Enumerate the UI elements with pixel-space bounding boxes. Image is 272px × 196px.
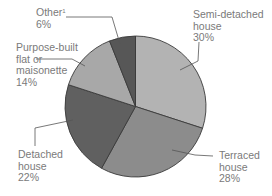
footnote-marker: 1 bbox=[62, 8, 65, 14]
label-terraced: Terraced house 28% bbox=[219, 150, 260, 185]
label-flat-value: 14% bbox=[16, 77, 78, 89]
label-detached-line1: Detached bbox=[18, 149, 63, 161]
label-other-name: Other bbox=[36, 6, 62, 18]
pie-slices bbox=[65, 36, 206, 177]
label-semi: Semi-detached house 30% bbox=[193, 9, 264, 44]
label-flat-line3: maisonette bbox=[16, 65, 78, 77]
label-terraced-line1: Terraced bbox=[219, 150, 260, 162]
label-terraced-value: 28% bbox=[219, 173, 260, 185]
label-flat: Purpose-built flat or maisonette 14% bbox=[16, 42, 78, 88]
label-detached-value: 22% bbox=[18, 172, 63, 184]
label-other: Other1 6% bbox=[36, 7, 66, 30]
label-flat-line1: Purpose-built bbox=[16, 42, 78, 54]
label-other-value: 6% bbox=[36, 19, 66, 31]
label-detached: Detached house 22% bbox=[18, 149, 63, 184]
label-semi-value: 30% bbox=[193, 32, 264, 44]
label-semi-line1: Semi-detached bbox=[193, 9, 264, 21]
